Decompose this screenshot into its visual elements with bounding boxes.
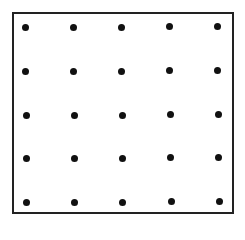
grid-dot: [71, 199, 78, 206]
grid-dot: [22, 24, 29, 31]
grid-dot: [166, 23, 173, 30]
grid-dot: [166, 67, 173, 74]
grid-dot: [118, 68, 125, 75]
grid-dot: [23, 199, 30, 206]
grid-dot: [168, 198, 175, 205]
grid-dot: [70, 24, 77, 31]
grid-dot: [167, 154, 174, 161]
grid-dot: [119, 112, 126, 119]
grid-dot: [119, 199, 126, 206]
grid-dot: [214, 67, 221, 74]
grid-dot: [118, 24, 125, 31]
grid-dot: [119, 155, 126, 162]
grid-dot: [22, 68, 29, 75]
grid-dot: [70, 68, 77, 75]
grid-dot: [71, 112, 78, 119]
grid-dot: [167, 111, 174, 118]
grid-dot: [23, 155, 30, 162]
grid-dot: [214, 23, 221, 30]
grid-dot: [216, 198, 223, 205]
grid-dot: [23, 112, 30, 119]
grid-dot: [215, 111, 222, 118]
grid-dot: [215, 154, 222, 161]
grid-dot: [71, 155, 78, 162]
